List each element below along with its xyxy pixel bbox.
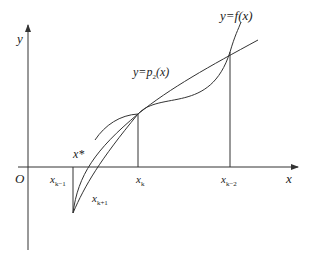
p2-label-suffix: (x) bbox=[156, 65, 169, 79]
xk-sub: k bbox=[141, 180, 145, 188]
xk-minus2-label: xk−2 bbox=[221, 174, 237, 188]
root-label: x* bbox=[73, 148, 84, 160]
diagram-graphics bbox=[0, 0, 311, 255]
y-axis-label: y bbox=[17, 32, 23, 45]
p2-curve-label: y=p2(x) bbox=[133, 66, 169, 81]
xk-minus2-sub: k−2 bbox=[226, 180, 237, 188]
xk-minus1-sub: k−1 bbox=[55, 180, 66, 188]
xk-label: xk bbox=[136, 174, 144, 188]
p2-label-prefix: y=p bbox=[133, 65, 152, 79]
f-curve bbox=[73, 22, 241, 213]
f-curve-label: y=f(x) bbox=[220, 9, 253, 22]
p2-left bbox=[95, 114, 138, 140]
xk-minus1-label: xk−1 bbox=[50, 174, 66, 188]
xk-plus1-label: xk+1 bbox=[92, 193, 108, 207]
xk-plus1-sub: k+1 bbox=[97, 199, 108, 207]
muller-method-diagram: y x O y=f(x) y=p2(x) x* xk−1 xk xk−2 xk+… bbox=[0, 0, 311, 255]
x-axis-label: x bbox=[286, 172, 292, 185]
origin-label: O bbox=[15, 172, 24, 185]
